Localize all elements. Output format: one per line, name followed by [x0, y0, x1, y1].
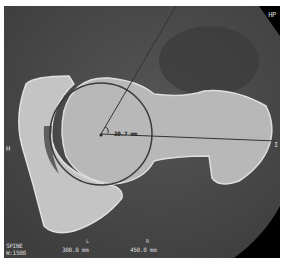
orientation-label-left: H [6, 146, 10, 153]
scale-marker-left: L [86, 238, 89, 245]
window-label-1: SPINE [6, 242, 23, 249]
ct-image: HP H I 30.7 mm SPINE W:1500 L 300.0 mm R… [4, 6, 280, 258]
scale-marker-right: R [146, 238, 149, 245]
scale-value-left: 300.0 mm [62, 246, 89, 253]
orientation-label-top-right: HP [268, 12, 276, 19]
scale-value-right: 450.0 mm [130, 246, 157, 253]
window-label-2: W:1500 [6, 249, 26, 256]
measurement-value: 30.7 mm [114, 130, 137, 137]
ct-scan-graphic [4, 6, 280, 258]
orientation-label-right: I [274, 142, 278, 149]
